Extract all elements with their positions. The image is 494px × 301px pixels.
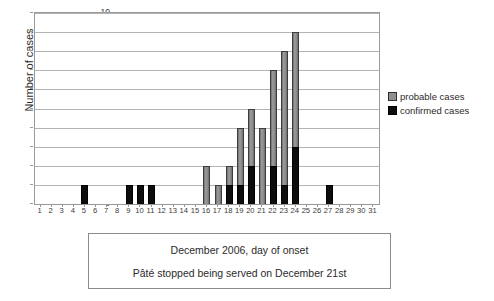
y-tick-mark xyxy=(30,184,33,185)
stacked-bar xyxy=(326,185,333,204)
caption-line-x-axis: December 2006, day of onset xyxy=(171,244,309,256)
bar-segment-confirmed xyxy=(126,185,133,204)
bar-segment-confirmed xyxy=(226,185,233,204)
bar-slot xyxy=(46,13,57,204)
bar-segment-probable xyxy=(281,51,288,185)
bar-series-container xyxy=(35,13,379,204)
x-tick-mark xyxy=(128,204,129,207)
stacked-bar xyxy=(281,51,288,204)
stacked-bar xyxy=(81,185,88,204)
plot-area xyxy=(34,12,380,205)
x-tick-mark xyxy=(295,204,296,207)
x-tick-mark xyxy=(184,204,185,207)
bar-segment-confirmed xyxy=(292,147,299,204)
x-tick-mark xyxy=(250,204,251,207)
y-tick-mark xyxy=(30,88,33,89)
caption-line-note: Pâté stopped being served on December 21… xyxy=(133,267,347,279)
stacked-bar xyxy=(215,185,222,204)
caption-box: December 2006, day of onset Pâté stopped… xyxy=(88,233,391,289)
bar-segment-confirmed xyxy=(237,185,244,204)
x-tick-mark xyxy=(239,204,240,207)
bar-slot xyxy=(113,13,124,204)
x-tick-mark xyxy=(317,204,318,207)
stacked-bar xyxy=(126,185,133,204)
x-tick-mark xyxy=(361,204,362,207)
x-tick-mark xyxy=(95,204,96,207)
x-tick-label: 31 xyxy=(365,207,379,215)
bar-segment-confirmed xyxy=(326,185,333,204)
x-tick-mark xyxy=(73,204,74,207)
x-tick-mark xyxy=(173,204,174,207)
bar-segment-confirmed xyxy=(81,185,88,204)
legend-swatch-confirmed-icon xyxy=(388,106,397,115)
bar-segment-confirmed xyxy=(137,185,144,204)
x-tick-mark xyxy=(139,204,140,207)
stacked-bar xyxy=(148,185,155,204)
bar-slot xyxy=(57,13,68,204)
stacked-bar xyxy=(203,166,210,204)
bar-slot xyxy=(90,13,101,204)
y-tick-mark xyxy=(30,127,33,128)
bar-segment-probable xyxy=(203,166,210,204)
bar-segment-probable xyxy=(237,128,244,185)
x-axis-tick-labels: 1234567891011121314151617181920212223242… xyxy=(34,207,380,221)
bar-slot xyxy=(368,13,379,204)
bar-segment-probable xyxy=(215,185,222,204)
x-tick-mark xyxy=(273,204,274,207)
bar-slot xyxy=(346,13,357,204)
bar-segment-confirmed xyxy=(270,166,277,204)
x-tick-mark xyxy=(217,204,218,207)
x-tick-mark xyxy=(339,204,340,207)
x-tick-mark xyxy=(84,204,85,207)
x-tick-mark xyxy=(306,204,307,207)
bar-slot xyxy=(235,13,246,204)
x-tick-mark xyxy=(284,204,285,207)
bar-slot xyxy=(102,13,113,204)
legend-label-probable: probable cases xyxy=(400,91,464,102)
bar-slot xyxy=(79,13,90,204)
bar-slot xyxy=(324,13,335,204)
bar-segment-probable xyxy=(292,32,299,147)
bar-slot xyxy=(268,13,279,204)
bar-slot xyxy=(213,13,224,204)
bar-slot xyxy=(35,13,46,204)
x-tick-mark xyxy=(228,204,229,207)
x-tick-mark xyxy=(62,204,63,207)
epidemic-curve-figure: Number of cases 012345678910 12345678910… xyxy=(0,0,494,301)
stacked-bar xyxy=(248,109,255,204)
bar-slot xyxy=(357,13,368,204)
y-tick-mark xyxy=(30,31,33,32)
y-tick-mark xyxy=(30,108,33,109)
bar-slot xyxy=(224,13,235,204)
legend-label-confirmed: confirmed cases xyxy=(400,105,469,116)
stacked-bar xyxy=(137,185,144,204)
bar-slot xyxy=(179,13,190,204)
bar-slot xyxy=(246,13,257,204)
bar-slot xyxy=(146,13,157,204)
x-tick-mark xyxy=(40,204,41,207)
x-tick-mark xyxy=(162,204,163,207)
y-tick-mark xyxy=(30,165,33,166)
bar-slot xyxy=(290,13,301,204)
bar-segment-probable xyxy=(270,70,277,166)
legend-item-confirmed: confirmed cases xyxy=(388,104,469,117)
x-tick-mark xyxy=(117,204,118,207)
x-tick-mark xyxy=(328,204,329,207)
stacked-bar xyxy=(270,70,277,204)
bar-slot xyxy=(312,13,323,204)
legend-item-probable: probable cases xyxy=(388,90,469,103)
bar-segment-confirmed xyxy=(148,185,155,204)
y-tick-mark xyxy=(30,203,33,204)
bar-slot xyxy=(301,13,312,204)
stacked-bar xyxy=(226,166,233,204)
bar-slot xyxy=(168,13,179,204)
bar-segment-probable xyxy=(259,128,266,204)
x-tick-mark xyxy=(195,204,196,207)
bar-slot xyxy=(257,13,268,204)
y-tick-mark xyxy=(30,69,33,70)
x-tick-mark xyxy=(350,204,351,207)
stacked-bar xyxy=(259,128,266,204)
bar-slot xyxy=(201,13,212,204)
x-tick-mark xyxy=(372,204,373,207)
x-tick-mark xyxy=(206,204,207,207)
